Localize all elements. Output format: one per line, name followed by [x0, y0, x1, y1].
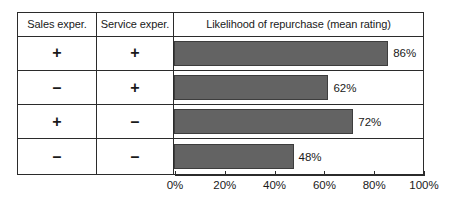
- x-axis-tick: [424, 171, 425, 176]
- x-axis-tick-label: 20%: [213, 179, 236, 191]
- cell-bar: 86%: [174, 37, 423, 70]
- sign-value: –: [53, 80, 62, 96]
- repurchase-table: Sales exper. Service exper. Likelihood o…: [17, 12, 424, 175]
- bar-track: 72%: [174, 105, 423, 138]
- table-row: + – 72%: [18, 105, 423, 139]
- bar-track: 62%: [174, 71, 423, 104]
- cell-sales-sign: +: [18, 37, 97, 70]
- bar-track: 86%: [174, 37, 423, 70]
- sign-value: –: [53, 149, 62, 165]
- header-label-service-exper: Service exper.: [101, 18, 169, 30]
- bar: [174, 144, 294, 169]
- bar-track: 48%: [174, 139, 423, 174]
- cell-sales-sign: –: [18, 139, 97, 174]
- sign-value: +: [130, 80, 139, 96]
- table-row: + + 86%: [18, 37, 423, 71]
- table-row: – + 62%: [18, 71, 423, 105]
- x-axis-tick-label: 100%: [409, 179, 438, 191]
- header-cell-likelihood: Likelihood of repurchase (mean rating): [174, 13, 423, 36]
- x-axis-tick: [225, 171, 226, 176]
- cell-service-sign: +: [97, 71, 174, 104]
- header-cell-sales-exper: Sales exper.: [18, 13, 97, 36]
- x-axis: 0%20%40%60%80%100%: [175, 175, 424, 203]
- bar-value-label: 72%: [358, 116, 381, 128]
- x-axis-tick: [324, 171, 325, 176]
- x-axis-tick-label: 0%: [167, 179, 184, 191]
- sign-value: –: [131, 149, 140, 165]
- x-axis-tick: [175, 171, 176, 176]
- bar: [174, 109, 353, 134]
- header-label-sales-exper: Sales exper.: [27, 18, 86, 30]
- bar: [174, 41, 388, 66]
- bar-value-label: 48%: [299, 151, 322, 163]
- cell-service-sign: +: [97, 37, 174, 70]
- x-axis-tick-label: 40%: [263, 179, 286, 191]
- header-cell-service-exper: Service exper.: [97, 13, 174, 36]
- sign-value: +: [52, 114, 61, 130]
- sign-value: –: [131, 114, 140, 130]
- bar-value-label: 62%: [333, 82, 356, 94]
- bar: [174, 75, 328, 100]
- x-axis-tick: [374, 171, 375, 176]
- header-label-likelihood: Likelihood of repurchase (mean rating): [206, 18, 391, 30]
- table-header-row: Sales exper. Service exper. Likelihood o…: [18, 13, 423, 37]
- bar-value-label: 86%: [393, 47, 416, 59]
- cell-service-sign: –: [97, 105, 174, 138]
- cell-service-sign: –: [97, 139, 174, 174]
- x-axis-line: [175, 175, 424, 176]
- cell-bar: 72%: [174, 105, 423, 138]
- sign-value: +: [52, 45, 61, 61]
- cell-sales-sign: +: [18, 105, 97, 138]
- cell-bar: 62%: [174, 71, 423, 104]
- cell-bar: 48%: [174, 139, 423, 174]
- x-axis-tick-label: 60%: [313, 179, 336, 191]
- repurchase-likelihood-figure: Sales exper. Service exper. Likelihood o…: [0, 0, 461, 203]
- x-axis-tick-label: 80%: [363, 179, 386, 191]
- x-axis-tick: [275, 171, 276, 176]
- sign-value: +: [130, 45, 139, 61]
- table-row: – – 48%: [18, 139, 423, 174]
- cell-sales-sign: –: [18, 71, 97, 104]
